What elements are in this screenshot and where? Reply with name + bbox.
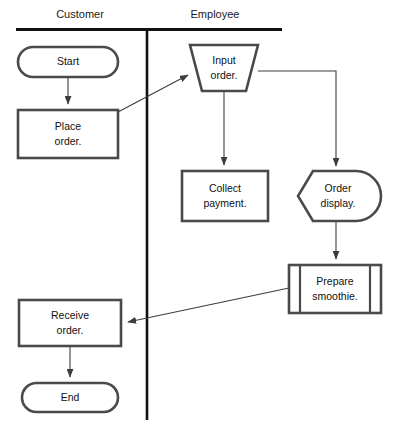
node-input-order[interactable]: Input order.: [190, 45, 258, 91]
prepare-smoothie-label-line1: Prepare: [316, 275, 354, 287]
node-prepare-smoothie[interactable]: Prepare smoothie.: [289, 265, 381, 313]
place-order-label-line2: order.: [55, 135, 82, 147]
node-order-display[interactable]: Order display.: [298, 171, 381, 221]
node-receive-order[interactable]: Receive order.: [19, 300, 121, 346]
connector-prepare-smoothie-to-receive-order: [128, 288, 289, 322]
node-end[interactable]: End: [22, 383, 118, 412]
input-order-label-line2: order.: [211, 69, 238, 81]
connector-place-order-to-input-order: [118, 75, 188, 112]
receive-order-label-line1: Receive: [51, 309, 89, 321]
flowchart-canvas: Customer Employee Start Place order.: [0, 0, 396, 433]
node-collect-payment[interactable]: Collect payment.: [182, 171, 268, 221]
input-order-label-line1: Input: [212, 54, 235, 66]
node-start[interactable]: Start: [18, 47, 118, 77]
node-place-order[interactable]: Place order.: [18, 110, 118, 158]
start-label: Start: [57, 55, 79, 67]
order-display-label-line1: Order: [325, 182, 352, 194]
lane-label-employee: Employee: [191, 8, 240, 20]
connector-input-order-to-order-display: [258, 71, 336, 166]
prepare-smoothie-label-line2: smoothie.: [312, 290, 358, 302]
end-label: End: [61, 391, 80, 403]
receive-order-label-line2: order.: [57, 324, 84, 336]
lane-label-customer: Customer: [56, 8, 104, 20]
collect-payment-label-line1: Collect: [209, 182, 241, 194]
order-display-label-line2: display.: [321, 197, 356, 209]
collect-payment-label-line2: payment.: [203, 197, 246, 209]
cross-functional-flowchart: Customer Employee Start Place order.: [0, 0, 396, 433]
place-order-label-line1: Place: [55, 120, 81, 132]
